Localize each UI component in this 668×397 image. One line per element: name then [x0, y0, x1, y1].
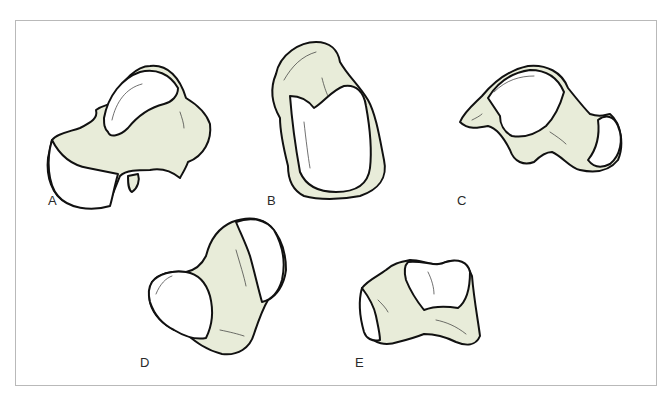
panel-label-b: B: [267, 194, 276, 207]
panel-e-bone: [360, 260, 480, 344]
bone-illustrations: [0, 0, 668, 397]
panel-b-bone: [273, 42, 385, 199]
panel-a-bone: [48, 66, 211, 209]
panel-c-bone: [460, 66, 621, 172]
panel-label-a: A: [48, 194, 57, 207]
panel-label-e: E: [355, 356, 364, 369]
panel-d-bone: [149, 219, 286, 355]
panel-label-c: C: [457, 194, 466, 207]
panel-label-d: D: [140, 356, 149, 369]
